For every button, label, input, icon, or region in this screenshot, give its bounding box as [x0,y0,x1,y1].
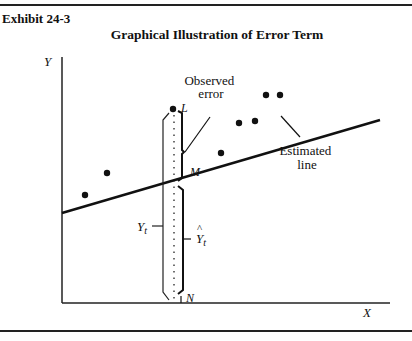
y-axis-label: Y [44,54,53,69]
data-point [252,118,258,124]
data-point [236,120,242,126]
estimated-line-pointer [281,116,300,137]
y-hat-t-brace [178,186,183,294]
y-t-bracket [163,113,169,300]
estimated-line [62,120,380,213]
data-point [82,192,88,198]
error-term-diagram: Y X Yt Observed error Yt ^ L M N Estimat… [0,0,412,341]
estimated-line-label: Estimated line [279,143,334,172]
data-point [104,170,110,176]
data-point [218,150,224,156]
y-t-label: Yt [137,219,147,236]
x-axis-label: X [362,305,372,320]
observed-error-pointer [185,117,210,152]
point-N-label: N [185,291,195,305]
y-hat-caret: ^ [197,222,203,234]
observed-error-label: Observed error [184,73,237,101]
point-L-label: L [180,101,188,115]
data-point [277,92,283,98]
data-point-L [170,106,176,112]
data-point [263,92,269,98]
observed-error-brace [178,111,184,181]
point-M-label: M [189,165,201,179]
